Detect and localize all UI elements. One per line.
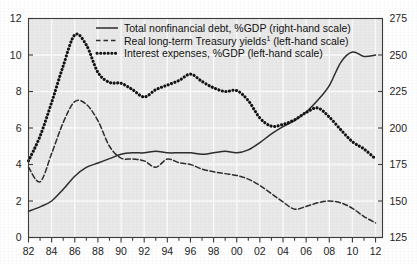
xtick-label: 84 [46, 245, 58, 257]
ytick-label-left: 2 [16, 195, 22, 207]
chart-container: 0246810121251501752002252502758284868890… [0, 0, 417, 264]
ytick-label-left: 8 [16, 85, 22, 97]
ytick-label-left: 4 [16, 158, 22, 170]
xtick-label: 06 [300, 245, 312, 257]
xtick-label: 82 [23, 245, 35, 257]
legend-label: Total nonfinancial debt, %GDP (right-han… [124, 22, 351, 34]
xtick-label: 04 [277, 245, 289, 257]
xtick-label: 08 [323, 245, 335, 257]
legend-label: Real long-term Treasury yields1 (left-ha… [124, 35, 349, 47]
ytick-label-right: 250 [390, 49, 408, 61]
xtick-label: 10 [347, 245, 359, 257]
legend-label: Interest expenses, %GDP (left-hand scale… [124, 47, 323, 59]
xtick-label: 02 [254, 245, 266, 257]
xtick-label: 90 [115, 245, 127, 257]
ytick-label-left: 12 [10, 12, 22, 24]
xtick-label: 96 [185, 245, 197, 257]
xtick-label: 86 [69, 245, 81, 257]
ytick-label-right: 275 [390, 12, 408, 24]
ytick-label-left: 0 [16, 231, 22, 243]
ytick-label-right: 150 [390, 195, 408, 207]
chart-figure: 0246810121251501752002252502758284868890… [0, 0, 417, 264]
ytick-label-left: 6 [16, 122, 22, 134]
xtick-label: 88 [92, 245, 104, 257]
ytick-label-right: 175 [390, 158, 408, 170]
xtick-label: 12 [370, 245, 382, 257]
ytick-label-left: 10 [10, 49, 22, 61]
ytick-label-right: 200 [390, 122, 408, 134]
xtick-label: 92 [138, 245, 150, 257]
chart-legend: Total nonfinancial debt, %GDP (right-han… [96, 22, 351, 59]
xtick-label: 98 [208, 245, 220, 257]
ytick-label-right: 125 [390, 231, 408, 243]
ytick-label-right: 225 [390, 85, 408, 97]
xtick-label: 00 [231, 245, 243, 257]
xtick-label: 94 [161, 245, 173, 257]
